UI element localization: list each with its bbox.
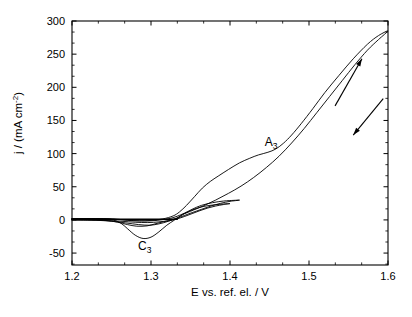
y-axis-title-main: j / (mA cm [12, 103, 24, 155]
y-tick-label: 300 [47, 15, 65, 27]
y-tick-label: 100 [47, 148, 65, 160]
x-axis-title-text: E vs. ref. el. / V [191, 286, 269, 298]
y-axis-title-tail: ) [12, 92, 24, 96]
y-tick-label: 0 [59, 214, 65, 226]
x-tick-label: 1.2 [64, 270, 79, 282]
x-tick-label: 1.5 [301, 270, 316, 282]
x-tick-label: 1.3 [143, 270, 158, 282]
cathodic-peak-label-letter: C [138, 239, 147, 253]
x-tick-label: 1.6 [380, 270, 395, 282]
y-tick-label: 250 [47, 48, 65, 60]
y-tick-label: 150 [47, 114, 65, 126]
anodic-peak-label-letter: A [265, 135, 273, 149]
cyclic-voltammogram-figure: 1.21.31.41.51.6 -50050100150200250300 A3… [0, 0, 412, 317]
y-tick-label: 200 [47, 81, 65, 93]
y-tick-label: -50 [49, 247, 65, 259]
x-axis-title: E vs. ref. el. / V [191, 286, 269, 298]
cathodic-peak-label-subscript: 3 [147, 245, 152, 255]
x-tick-label: 1.4 [222, 270, 237, 282]
y-tick-label: 50 [53, 181, 65, 193]
anodic-peak-label-subscript: 3 [273, 141, 278, 151]
chart-canvas: 1.21.31.41.51.6 -50050100150200250300 A3… [0, 0, 412, 317]
